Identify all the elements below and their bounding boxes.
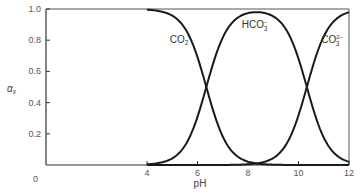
y-tick-label: 1.0 xyxy=(28,4,41,14)
y-axis-label: αx xyxy=(7,83,17,95)
species-label-co2: CO2 xyxy=(170,34,189,46)
species-curves xyxy=(147,10,349,165)
y-tick-label: 0.4 xyxy=(28,98,41,108)
x-tick-label: 8 xyxy=(245,168,250,178)
y-tick-label: 0.8 xyxy=(28,35,41,45)
species-label-bicarbonate: HCO−3 xyxy=(242,19,268,32)
carbonate-speciation-chart: 00.20.40.60.81.0 4681012 CO2HCO−3CO2−3 p… xyxy=(0,0,364,193)
y-axis-ticks: 00.20.40.60.81.0 xyxy=(28,4,50,184)
y-tick-label: 0.2 xyxy=(28,129,41,139)
plot-frame xyxy=(46,9,349,165)
species-label-carbonate: CO2−3 xyxy=(321,34,343,47)
co2-curve xyxy=(147,10,349,165)
x-axis-label: pH xyxy=(194,178,207,189)
x-tick-label: 4 xyxy=(144,168,149,178)
y-tick-label: 0 xyxy=(33,174,38,184)
x-tick-label: 10 xyxy=(293,168,303,178)
y-tick-label: 0.6 xyxy=(28,66,41,76)
species-labels: CO2HCO−3CO2−3 xyxy=(170,19,344,48)
x-tick-label: 6 xyxy=(195,168,200,178)
x-tick-label: 12 xyxy=(344,168,354,178)
